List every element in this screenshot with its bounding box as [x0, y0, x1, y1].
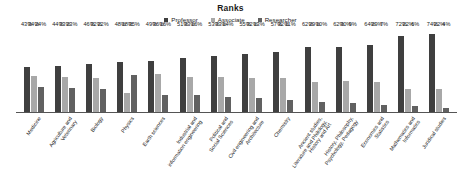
category-label: Juridical studies [422, 116, 448, 150]
bar[interactable]: 10% [319, 102, 325, 113]
bar[interactable]: 22% [100, 89, 106, 112]
bar[interactable]: 18% [124, 93, 130, 112]
bar[interactable]: 64% [367, 45, 373, 112]
bar[interactable]: 36% [155, 74, 161, 112]
bar[interactable]: 32% [93, 78, 99, 112]
category-label: Physics [121, 116, 136, 134]
bar[interactable]: 11% [287, 100, 293, 112]
bar-column[interactable]: 62% [305, 28, 311, 112]
category-label: Agriculture andVeterinary [48, 116, 78, 152]
ranks-bar-chart: Ranks ProfessorAssociateResearcher 43%34… [0, 0, 461, 188]
bar[interactable]: 23% [69, 88, 75, 112]
bar-column[interactable]: 11% [287, 28, 293, 112]
bar-column[interactable]: 44% [55, 28, 61, 112]
bar-column[interactable]: 29% [374, 28, 380, 112]
bar[interactable]: 49% [148, 61, 154, 112]
bar[interactable]: 74% [429, 34, 435, 112]
bar-column[interactable]: 34% [31, 28, 37, 112]
bar-column[interactable]: 22% [405, 28, 411, 112]
bar[interactable]: 72% [398, 36, 404, 112]
bar-value-label: 16% [191, 22, 202, 28]
bar[interactable]: 46% [86, 64, 92, 112]
bar-column[interactable]: 36% [155, 28, 161, 112]
bar-column[interactable]: 23% [69, 28, 75, 112]
bar-column[interactable]: 14% [225, 28, 231, 112]
bar-column[interactable]: 74% [429, 28, 435, 112]
bar[interactable]: 32% [280, 78, 286, 112]
bar-column[interactable]: 6% [412, 28, 418, 112]
bar-value-label: 11% [285, 22, 296, 28]
x-axis-line [16, 112, 457, 113]
bar[interactable]: 43% [24, 67, 30, 112]
bar[interactable]: 14% [225, 97, 231, 112]
bar-value-label: 6% [411, 22, 419, 28]
bar-column[interactable]: 46% [86, 28, 92, 112]
bar[interactable]: 55% [242, 54, 248, 112]
bar-value-label: 9% [349, 22, 357, 28]
bar-column[interactable]: 29% [312, 28, 318, 112]
bar-column[interactable]: 32% [280, 28, 286, 112]
bar[interactable]: 22% [405, 89, 411, 112]
bar-column[interactable]: 33% [218, 28, 224, 112]
bar-column[interactable]: 43% [24, 28, 30, 112]
bar[interactable]: 57% [273, 52, 279, 112]
bar-column[interactable]: 16% [194, 28, 200, 112]
bar[interactable]: 33% [62, 77, 68, 112]
bar[interactable]: 29% [374, 82, 380, 112]
bar[interactable]: 34% [31, 76, 37, 112]
bar-column[interactable]: 24% [38, 28, 44, 112]
bar[interactable]: 44% [55, 66, 61, 112]
bar-column[interactable]: 13% [256, 28, 262, 112]
bar-value-label: 23% [66, 22, 77, 28]
bar[interactable]: 35% [131, 75, 137, 112]
bar-column[interactable]: 49% [148, 28, 154, 112]
bar-value-label: 16% [160, 22, 171, 28]
bar-group: 74%22%4% [429, 28, 450, 112]
bar[interactable]: 53% [211, 56, 217, 112]
bar[interactable]: 62% [336, 47, 342, 112]
bar-column[interactable]: 22% [100, 28, 106, 112]
bar[interactable]: 7% [381, 105, 387, 112]
bar-column[interactable]: 33% [62, 28, 68, 112]
bar-column[interactable]: 18% [124, 28, 130, 112]
bar[interactable]: 30% [343, 81, 349, 113]
bar-column[interactable]: 32% [249, 28, 255, 112]
bar-column[interactable]: 7% [381, 28, 387, 112]
bar-column[interactable]: 30% [343, 28, 349, 112]
bar-column[interactable]: 4% [443, 28, 449, 112]
bar[interactable]: 22% [436, 89, 442, 112]
bar[interactable]: 62% [305, 47, 311, 112]
bar-column[interactable]: 72% [398, 28, 404, 112]
bar[interactable]: 9% [350, 103, 356, 112]
bar-group: 53%33%14% [210, 28, 231, 112]
bar[interactable]: 33% [187, 77, 193, 112]
bar[interactable]: 16% [194, 95, 200, 112]
bar-column[interactable]: 32% [93, 28, 99, 112]
category-label: Economics andStatistics [360, 116, 390, 152]
bar-column[interactable]: 33% [187, 28, 193, 112]
bar[interactable]: 29% [312, 82, 318, 112]
bar-column[interactable]: 51% [180, 28, 186, 112]
bar-value-label: 35% [129, 22, 140, 28]
bar-column[interactable]: 35% [131, 28, 137, 112]
bar-column[interactable]: 22% [436, 28, 442, 112]
bar-column[interactable]: 10% [319, 28, 325, 112]
bar-column[interactable]: 64% [367, 28, 373, 112]
bar-group: 48%18%35% [117, 28, 138, 112]
bar[interactable]: 13% [256, 98, 262, 112]
category-label: Mathematics andInformatics [389, 116, 421, 155]
bar-column[interactable]: 9% [350, 28, 356, 112]
bar[interactable]: 16% [162, 95, 168, 112]
bar[interactable]: 51% [180, 58, 186, 112]
bar[interactable]: 24% [38, 87, 44, 112]
bar[interactable]: 33% [218, 77, 224, 112]
bar[interactable]: 32% [249, 78, 255, 112]
bar-column[interactable]: 16% [162, 28, 168, 112]
bar-column[interactable]: 62% [336, 28, 342, 112]
bar-value-label: 7% [380, 22, 388, 28]
bar-column[interactable]: 57% [273, 28, 279, 112]
bar-column[interactable]: 48% [117, 28, 123, 112]
bar-column[interactable]: 53% [211, 28, 217, 112]
bar[interactable]: 48% [117, 62, 123, 112]
bar-column[interactable]: 55% [242, 28, 248, 112]
